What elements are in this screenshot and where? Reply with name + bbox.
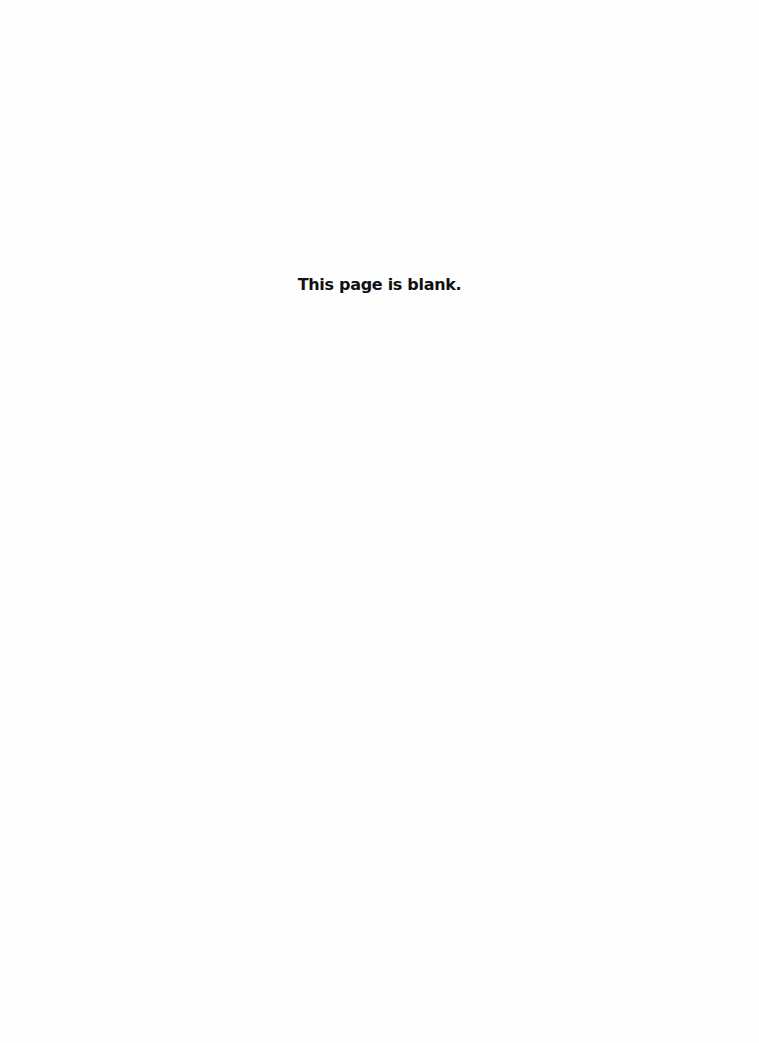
document-page: This page is blank. [0, 0, 759, 1043]
blank-page-notice: This page is blank. [0, 275, 759, 294]
